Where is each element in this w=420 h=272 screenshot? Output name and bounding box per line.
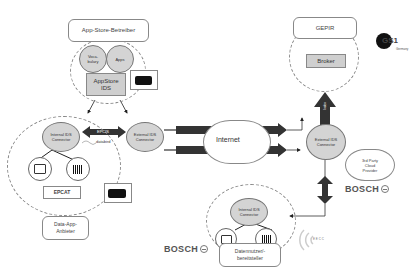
data-user-provider-box: Datennutzer/- bereitsteller [219, 243, 281, 267]
index-up-label: Index [323, 102, 327, 109]
bosch-ring-icon-bottom [200, 245, 208, 253]
server-icon-left [104, 183, 132, 203]
gepir-box: GEPIR [293, 17, 357, 39]
bosch-logo-text-bottom: BOSCH [164, 244, 198, 254]
databird-label: databird [96, 139, 110, 144]
tablet-icon [28, 157, 52, 181]
server-icon [130, 70, 158, 90]
internet-label: Internet [216, 136, 240, 143]
third-party-cloud: 3rd Party Cloud Provider [345, 149, 395, 181]
appstore-ids-box: AppStore IDS [86, 73, 126, 96]
gs1-logo-subtext: Germany [396, 47, 408, 51]
gs1-logo-text: GS1 [382, 36, 398, 45]
eecc-epcis-arrow-label: EECC EPCIS [219, 148, 243, 153]
epcat-box: EPCAT [43, 186, 81, 199]
barcode-icon [66, 157, 90, 181]
broker-box: Broker [306, 54, 346, 68]
app-store-operator-box: App-Store-Betreiber [68, 19, 149, 42]
gs1-logo: GS1 Germany [376, 33, 416, 53]
bosch-logo-right: BOSCH [345, 184, 389, 194]
index-arrow-label: Index [225, 127, 235, 132]
vocabulary-node: Voca- bulary [79, 45, 107, 73]
apps-node: Apps [106, 45, 134, 73]
bosch-logo-text: BOSCH [345, 184, 379, 194]
internal-ids-connector-bottom: Internal IDS Connector [230, 198, 268, 226]
external-ids-connector-left: External IDS Connector [126, 122, 164, 152]
epcis-arrow-label: EPCIS [97, 129, 109, 134]
data-app-provider-box: Data-App- Anbieter [42, 216, 89, 240]
bosch-logo-bottom: BOSCH [164, 244, 208, 254]
eecc-logo: E E C C [313, 237, 324, 241]
bosch-ring-icon [381, 185, 389, 193]
internal-ids-connector-left: Internal IDS Connector [42, 122, 80, 152]
external-ids-connector-right: External IDS Connector [306, 124, 346, 160]
